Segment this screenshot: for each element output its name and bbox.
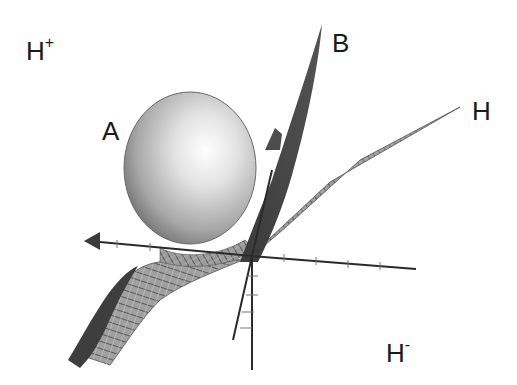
label-h: H bbox=[472, 98, 491, 124]
label-a: A bbox=[102, 118, 119, 144]
hyperplane-h-band bbox=[160, 240, 255, 266]
diagram-canvas: H+ A B H H- bbox=[0, 0, 517, 385]
sphere-a bbox=[124, 92, 256, 244]
label-h-minus: H- bbox=[386, 340, 410, 366]
surface-b-notch bbox=[265, 128, 282, 150]
diagram-graphic bbox=[0, 0, 517, 385]
label-b: B bbox=[332, 30, 349, 56]
axis-arrowhead-icon bbox=[84, 232, 100, 250]
label-h-plus: H+ bbox=[26, 38, 54, 64]
